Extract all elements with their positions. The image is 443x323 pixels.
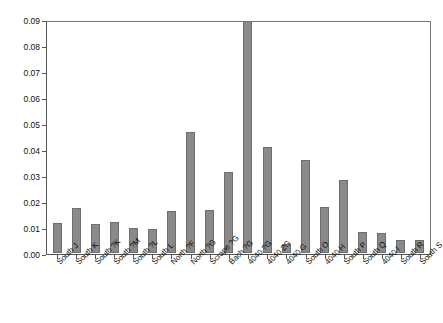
x-axis-tick-mark [191, 255, 192, 259]
bar[interactable] [186, 132, 195, 253]
x-axis-tick-mark [382, 255, 383, 259]
bar-slot [86, 23, 105, 253]
bar[interactable] [72, 208, 81, 253]
bar-slot [334, 23, 353, 253]
x-axis-tick-mark [420, 255, 421, 259]
y-axis-tick-label: 0.00 [6, 250, 40, 260]
x-axis-tick-mark [286, 255, 287, 259]
bar[interactable] [243, 21, 252, 253]
bar-slot [143, 23, 162, 253]
plot-area [46, 21, 431, 255]
bar-slot [410, 23, 429, 253]
bar-slot [353, 23, 372, 253]
bar[interactable] [263, 147, 272, 253]
y-axis-tick-label: 0.04 [6, 146, 40, 156]
bar[interactable] [224, 172, 233, 253]
x-axis-tick-mark [363, 255, 364, 259]
bar-slot [200, 23, 219, 253]
bar-slot [277, 23, 296, 253]
bar-slot [181, 23, 200, 253]
bar[interactable] [396, 240, 405, 253]
x-axis-tick-mark [401, 255, 402, 259]
x-axis-tick-mark [210, 255, 211, 259]
x-axis-tick-mark [152, 255, 153, 259]
x-axis-tick-mark [57, 255, 58, 259]
x-axis-tick-mark [267, 255, 268, 259]
y-axis-tick-label: 0.06 [6, 94, 40, 104]
bar[interactable] [301, 160, 310, 253]
x-axis-tick-mark [95, 255, 96, 259]
bar[interactable] [205, 210, 214, 253]
x-axis-tick-mark [229, 255, 230, 259]
bar-slot [162, 23, 181, 253]
bar[interactable] [339, 180, 348, 253]
x-axis-tick-mark [76, 255, 77, 259]
bar[interactable] [53, 223, 62, 253]
x-axis-tick-mark [133, 255, 134, 259]
bar[interactable] [148, 229, 157, 253]
bar-slot [219, 23, 238, 253]
bar-series [48, 23, 429, 253]
bar-slot [315, 23, 334, 253]
x-axis-tick-mark [344, 255, 345, 259]
bar[interactable] [282, 244, 291, 253]
y-axis-tick-label: 0.07 [6, 68, 40, 78]
bar-slot [124, 23, 143, 253]
y-axis-tick-label: 0.08 [6, 42, 40, 52]
bar-slot [296, 23, 315, 253]
bar[interactable] [167, 211, 176, 253]
x-axis-tick-mark [325, 255, 326, 259]
bar[interactable] [320, 207, 329, 253]
bar-slot [105, 23, 124, 253]
bar-slot [238, 23, 257, 253]
bar-slot [258, 23, 277, 253]
bar[interactable] [358, 232, 367, 253]
bar-slot [372, 23, 391, 253]
y-axis-tick-label: 0.01 [6, 224, 40, 234]
x-axis-tick-mark [306, 255, 307, 259]
y-axis-tick-label: 0.09 [6, 16, 40, 26]
bar[interactable] [110, 222, 119, 253]
bar[interactable] [377, 233, 386, 253]
bar-chart: 0.000.010.020.030.040.050.060.070.080.09… [0, 0, 443, 323]
x-axis-tick-mark [171, 255, 172, 259]
bar[interactable] [129, 228, 138, 253]
bar-slot [48, 23, 67, 253]
y-axis-tick-label: 0.02 [6, 198, 40, 208]
y-axis-tick-label: 0.05 [6, 120, 40, 130]
x-axis-ticks [46, 255, 431, 260]
bar-slot [391, 23, 410, 253]
x-axis-tick-mark [248, 255, 249, 259]
bar[interactable] [91, 224, 100, 253]
x-axis-tick-mark [114, 255, 115, 259]
bar[interactable] [415, 240, 424, 253]
y-axis-tick-label: 0.03 [6, 172, 40, 182]
bar-slot [67, 23, 86, 253]
